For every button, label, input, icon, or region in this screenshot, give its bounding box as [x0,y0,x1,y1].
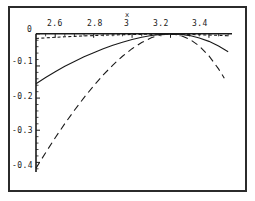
plot-screenshot: 2.6 2.8 3 3.2 3.4 x 0 -0.1 -0.2 -0.3 -0.… [0,0,255,201]
xtick-label-2-8: 2.8 [87,19,103,28]
x-axis-title: x [125,11,129,19]
ytick-label-0: 0 [27,25,32,34]
ytick-label-neg-0-4: -0.4 [12,161,33,170]
xtick-label-3-4: 3.4 [192,19,208,28]
xtick-label-3: 3 [124,19,129,28]
xtick-label-2-6: 2.6 [47,19,63,28]
ytick-label-neg-0-1: -0.1 [12,57,33,66]
ytick-label-neg-0-2: -0.2 [12,92,33,101]
xtick-label-3-2: 3.2 [153,19,169,28]
plot-frame-border [8,6,247,192]
ytick-label-neg-0-3: -0.3 [12,126,33,135]
